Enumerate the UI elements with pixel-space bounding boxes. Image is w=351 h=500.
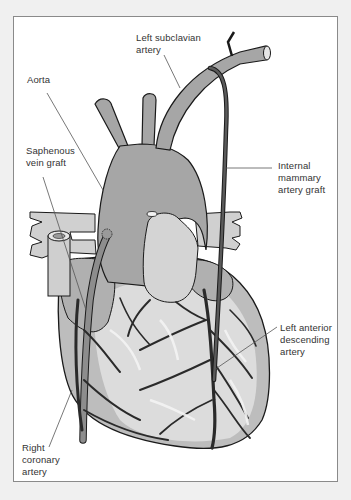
leader-aorta (47, 93, 103, 190)
label-internal-mammary-artery-graft: Internal mammary artery graft (278, 160, 325, 196)
pulmonary-trunk (143, 213, 198, 302)
leader-left-subclavian (164, 55, 180, 88)
superior-vena-cava (48, 231, 70, 296)
heart-illustration (0, 0, 351, 500)
label-left-anterior-descending-artery: Left anterior descending artery (280, 322, 332, 358)
label-right-coronary-artery: Right coronary artery (22, 442, 60, 478)
label-left-subclavian-artery: Left subclavian artery (136, 32, 201, 56)
leader-right-coronary (49, 390, 72, 447)
label-aorta: Aorta (27, 74, 50, 86)
label-saphenous-vein-graft: Saphenous vein graft (26, 145, 75, 169)
left-subclavian-artery (156, 46, 269, 150)
